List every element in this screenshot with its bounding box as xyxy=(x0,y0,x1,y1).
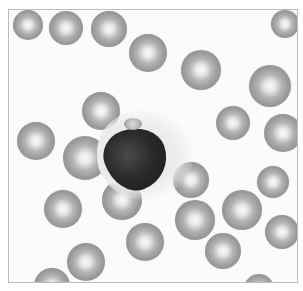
red-blood-cell xyxy=(49,11,83,45)
red-blood-cell xyxy=(67,243,105,281)
red-blood-cell xyxy=(175,200,215,240)
red-blood-cell xyxy=(205,233,241,269)
red-blood-cell xyxy=(126,223,164,261)
red-blood-cell xyxy=(271,10,298,38)
red-blood-cell xyxy=(129,34,167,72)
platelet-cluster xyxy=(124,118,142,130)
micrograph-frame xyxy=(8,9,298,283)
red-blood-cell xyxy=(91,11,127,47)
red-blood-cell xyxy=(244,274,274,283)
red-blood-cell xyxy=(249,65,291,107)
red-blood-cell xyxy=(257,166,289,198)
red-blood-cell xyxy=(222,190,262,230)
red-blood-cell xyxy=(17,122,55,160)
red-blood-cell xyxy=(44,190,82,228)
red-blood-cell xyxy=(34,268,70,283)
red-blood-cell xyxy=(265,215,298,249)
red-blood-cell xyxy=(13,10,43,40)
red-blood-cell xyxy=(264,114,298,152)
red-blood-cell xyxy=(181,50,221,90)
red-blood-cell xyxy=(216,106,250,140)
